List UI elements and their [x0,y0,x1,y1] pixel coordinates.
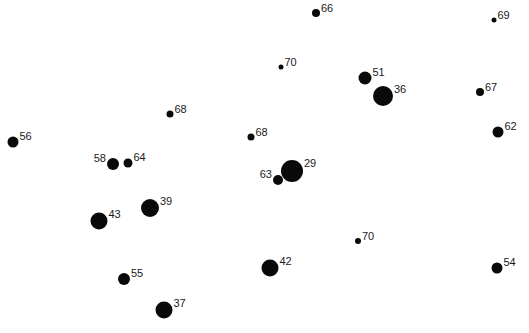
data-point-marker [492,18,497,23]
data-point-label: 62 [505,120,517,132]
data-point: 42 [262,255,292,276]
data-point-marker [118,273,130,285]
data-point-label: 70 [285,56,297,68]
data-point-marker [91,213,108,230]
data-point: 62 [493,120,517,137]
data-point: 64 [124,151,146,167]
data-point-marker [476,88,484,96]
data-point-label: 42 [280,255,292,267]
data-point: 29 [281,157,316,182]
data-point-label: 56 [20,130,32,142]
data-point-label: 68 [256,126,268,138]
data-point-label: 54 [504,256,516,268]
data-point-label: 66 [321,2,333,14]
data-point-marker [492,263,503,274]
data-point: 68 [248,126,268,141]
data-point: 43 [91,208,121,229]
data-point: 67 [476,81,497,96]
data-point: 54 [492,256,516,273]
data-point-marker [359,72,372,85]
data-point-label: 63 [260,168,272,180]
data-point: 63 [260,168,283,185]
data-point-label: 51 [373,66,385,78]
data-point-label: 69 [498,9,510,21]
data-point: 55 [118,267,143,285]
data-point-marker [248,134,255,141]
data-point: 37 [156,297,186,318]
data-point-label: 68 [175,103,187,115]
data-point-marker [273,175,283,185]
data-point: 70 [355,230,374,244]
data-point: 51 [359,66,385,85]
data-point-marker [279,65,284,70]
data-point: 70 [279,56,297,69]
data-point: 39 [141,195,172,217]
data-point-marker [355,238,361,244]
data-point-marker [373,86,393,106]
data-point-marker [156,302,173,319]
data-point: 68 [167,103,187,118]
data-point-marker [124,159,133,168]
data-point: 66 [312,2,333,17]
data-point-marker [312,9,320,17]
data-point-marker [493,127,504,138]
data-point-marker [262,260,279,277]
data-point: 69 [492,9,510,22]
data-point-label: 43 [109,208,121,220]
data-point-label: 58 [94,152,106,164]
data-point-marker [281,160,303,182]
data-point-marker [8,137,19,148]
data-point: 36 [373,83,406,107]
data-point-label: 67 [485,81,497,93]
data-point-label: 36 [394,83,406,95]
data-point: 58 [94,152,119,170]
data-point-label: 64 [134,151,146,163]
data-point-label: 29 [304,157,316,169]
data-point-label: 39 [160,195,172,207]
data-point: 56 [8,130,32,147]
data-point-label: 37 [174,297,186,309]
data-point-marker [167,111,174,118]
data-point-marker [141,199,159,217]
data-point-marker [107,158,119,170]
data-point-label: 55 [131,267,143,279]
scatter-plot: 6669705136676862566858642963394370425455… [0,0,529,333]
data-point-label: 70 [362,230,374,242]
